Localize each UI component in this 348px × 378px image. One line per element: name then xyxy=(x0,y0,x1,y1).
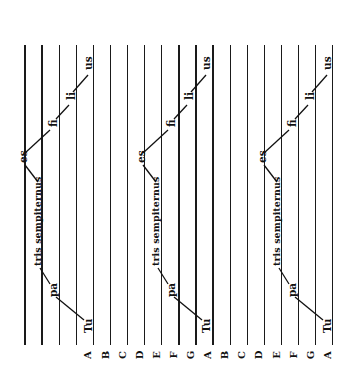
syllable: Tu xyxy=(201,319,212,333)
pitch-label: D xyxy=(135,351,145,360)
pitch-label: B xyxy=(101,351,111,359)
pitch-label: D xyxy=(255,351,265,360)
pitch-label: E xyxy=(271,351,281,359)
syllable: fi xyxy=(166,119,177,127)
connector-line xyxy=(56,105,69,119)
pitch-label: C xyxy=(118,351,128,359)
connector-line xyxy=(174,105,187,119)
syllable: us xyxy=(322,56,333,70)
syllable: es xyxy=(136,150,147,163)
connector-line xyxy=(191,75,206,92)
connector-line xyxy=(56,297,84,320)
connector-line xyxy=(174,297,202,320)
syllable: li xyxy=(66,92,77,100)
syllable: es xyxy=(18,150,29,163)
syllable: pa xyxy=(166,283,177,297)
syllable: us xyxy=(83,56,94,70)
pitch-label: E xyxy=(152,351,162,359)
pitch-label: F xyxy=(168,351,178,358)
syllable: fi xyxy=(48,119,59,127)
connector-line xyxy=(279,268,289,284)
connector-line xyxy=(295,105,308,119)
syllable: tris sempiternus xyxy=(151,176,161,266)
pitch-label: A xyxy=(83,351,93,359)
connector-line xyxy=(73,75,88,92)
pitch-label: G xyxy=(306,351,316,360)
syllable: tris sempiternus xyxy=(33,176,43,266)
syllable: pa xyxy=(287,283,298,297)
connector-line xyxy=(312,75,327,92)
pitch-label: G xyxy=(186,351,196,360)
connector-line xyxy=(158,268,168,284)
syllable: li xyxy=(305,92,316,100)
pitch-label: C xyxy=(237,351,247,359)
syllable: pa xyxy=(48,283,59,297)
syllable: li xyxy=(184,92,195,100)
syllable: Tu xyxy=(83,319,94,333)
syllable: tris sempiternus xyxy=(272,176,282,266)
pitch-label: A xyxy=(323,351,333,359)
syllable: fi xyxy=(287,119,298,127)
connector-line xyxy=(295,297,323,320)
syllable: es xyxy=(257,150,268,163)
pitch-label: A xyxy=(203,351,213,359)
syllable: us xyxy=(201,56,212,70)
pitch-label: F xyxy=(288,351,298,358)
chant-melody-diagram: Tupatris sempiternusesfiliusTupatris sem… xyxy=(0,0,348,378)
connector-line xyxy=(40,268,50,284)
pitch-label: B xyxy=(220,351,230,359)
melodic-connectors xyxy=(0,0,348,378)
syllable: Tu xyxy=(322,319,333,333)
